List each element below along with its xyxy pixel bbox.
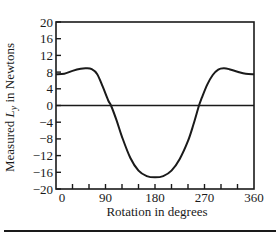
- y-axis-title-suffix: in Newtons: [2, 43, 17, 106]
- y-tick-label: −12: [33, 148, 53, 163]
- x-axis-ticks: 090180270360: [59, 184, 264, 205]
- y-tick-label: 16: [40, 31, 54, 46]
- x-tick-label: 270: [195, 190, 215, 205]
- y-tick-label: 8: [47, 65, 54, 80]
- y-tick-label: −4: [39, 115, 53, 130]
- y-axis-title-prefix: Measured: [2, 118, 17, 173]
- y-tick-label: 4: [47, 81, 54, 96]
- y-axis-title-symbol: L: [2, 110, 17, 118]
- y-tick-label: 0: [47, 98, 54, 113]
- x-tick-label: 180: [145, 190, 165, 205]
- y-axis-title: Measured Ly in Newtons: [2, 43, 19, 172]
- x-tick-label: 0: [59, 190, 66, 205]
- y-tick-label: −20: [33, 182, 53, 197]
- x-tick-label: 90: [99, 190, 112, 205]
- data-curve: [56, 68, 254, 177]
- y-tick-label: 20: [40, 15, 53, 30]
- x-tick-label: 360: [244, 190, 264, 205]
- y-tick-label: −8: [39, 131, 53, 146]
- x-axis-title: Rotation in degrees: [106, 204, 207, 219]
- y-tick-label: 12: [40, 48, 53, 63]
- line-chart: 201612840−4−8−12−16−20 090180270360 Rota…: [0, 0, 278, 236]
- y-tick-label: −16: [33, 165, 54, 180]
